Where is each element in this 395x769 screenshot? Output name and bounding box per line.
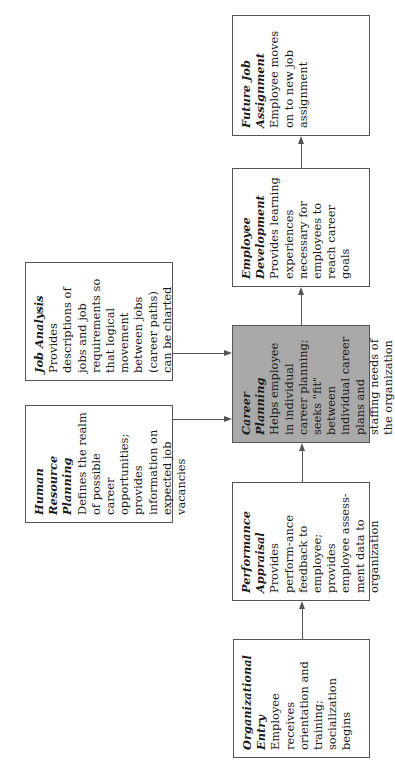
connector-line bbox=[173, 419, 225, 420]
connector-line bbox=[302, 451, 303, 483]
box-employee-development: Employee Development Provides learning e… bbox=[232, 168, 370, 287]
box-description: Defines the realm of possible career opp… bbox=[75, 412, 189, 515]
arrow-head-icon bbox=[224, 350, 232, 356]
box-description: Provides descriptions of jobs and job re… bbox=[46, 269, 174, 373]
connector-line bbox=[173, 353, 225, 354]
box-title: Human Resource Planning bbox=[32, 412, 75, 515]
box-human-resource-planning: Human Resource Planning Defines the real… bbox=[25, 405, 173, 523]
box-future-job-assignment: Future Job Assignment Employee moves on … bbox=[232, 15, 370, 136]
arrow-head-icon bbox=[299, 601, 305, 609]
box-job-analysis: Job Analysis Provides descriptions of jo… bbox=[25, 262, 173, 381]
arrow-head-icon bbox=[298, 136, 304, 144]
box-description: Employee moves on to new job assignment bbox=[267, 22, 310, 128]
arrow-head-icon bbox=[298, 287, 304, 295]
box-career-planning: Career Planning Helps employee in indivi… bbox=[232, 325, 370, 443]
box-description: Provides learning experiences necessary … bbox=[267, 175, 352, 279]
box-organizational-entry: Organizational Entry Employee receives o… bbox=[233, 639, 370, 758]
arrow-head-icon bbox=[299, 443, 305, 451]
box-title: Future Job Assignment bbox=[239, 22, 267, 128]
box-title: Organizational Entry bbox=[240, 646, 268, 750]
box-description: Employee receives orientation and traini… bbox=[268, 646, 353, 750]
box-description: Provides perform-ance feedback to employ… bbox=[267, 489, 381, 593]
box-performance-appraisal: Performance Appraisal Provides perform-a… bbox=[232, 482, 370, 601]
box-title: Employee Development bbox=[239, 175, 267, 279]
box-title: Performance Appraisal bbox=[239, 489, 267, 593]
box-title: Job Analysis bbox=[32, 269, 46, 373]
box-title: Career Planning bbox=[239, 332, 267, 435]
connector-line bbox=[302, 609, 303, 639]
connector-line bbox=[301, 295, 302, 325]
connector-line bbox=[301, 144, 302, 168]
arrow-head-icon bbox=[224, 416, 232, 422]
box-description: Helps employee in individual career plan… bbox=[267, 332, 395, 435]
